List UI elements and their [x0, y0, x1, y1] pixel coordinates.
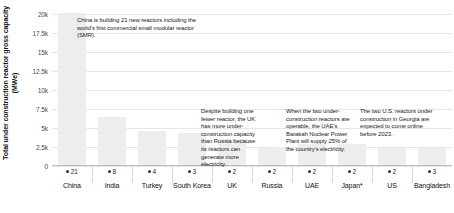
- count-dot-icon: [148, 170, 151, 173]
- bar[interactable]: [378, 148, 405, 165]
- category-column: 21China: [52, 166, 92, 212]
- x-axis-category-label: Bangladesh: [414, 182, 450, 191]
- y-axis-tick-label: 15k: [38, 49, 48, 56]
- count-dot-icon: [428, 170, 431, 173]
- reactor-count-value: 2: [392, 167, 396, 176]
- reactor-count-badge: 21: [66, 167, 78, 176]
- reactor-count-value: 21: [71, 167, 78, 176]
- y-axis-tick-label: 7.5k: [36, 106, 48, 113]
- nuclear-capacity-bar-chart: Total under construction reactor gross c…: [0, 0, 454, 213]
- count-dot-icon: [348, 170, 351, 173]
- reactor-count-badge: 2: [388, 167, 396, 176]
- reactor-count-badge: 2: [308, 167, 316, 176]
- reactor-count-badge: 8: [108, 167, 116, 176]
- category-column: 4Turkey: [132, 166, 172, 212]
- category-column: 2Russia: [252, 166, 292, 212]
- count-dot-icon: [268, 170, 271, 173]
- category-column: 8India: [92, 166, 132, 212]
- category-column: 3South Korea: [172, 166, 212, 212]
- x-axis-category-label: US: [387, 182, 397, 191]
- category-column: 2UAE: [292, 166, 332, 212]
- reactor-count-badge: 3: [428, 167, 436, 176]
- x-axis-category-label: China: [63, 182, 81, 191]
- x-axis-category-label: Turkey: [142, 182, 163, 191]
- reactor-count-badge: 2: [268, 167, 276, 176]
- count-dot-icon: [108, 170, 111, 173]
- bar-slot: [372, 14, 412, 165]
- y-axis-tick-label: 2.5k: [36, 144, 48, 151]
- bar[interactable]: [98, 117, 125, 165]
- reactor-count-badge: 2: [348, 167, 356, 176]
- x-axis-category-label: UAE: [305, 182, 319, 191]
- category-axis: 21China8India4Turkey3South Korea2UK2Russ…: [52, 166, 452, 212]
- y-axis-tick-label: 10k: [38, 87, 48, 94]
- y-axis-tick-label: 0: [44, 163, 48, 170]
- reactor-count-value: 2: [352, 167, 356, 176]
- category-column: 3Bangladesh: [412, 166, 452, 212]
- annotation-us: The two U.S. reactors under construction…: [360, 108, 434, 138]
- reactor-count-value: 3: [192, 167, 196, 176]
- category-column: 2US: [372, 166, 412, 212]
- annotation-uae: When the two under-construction reactors…: [286, 108, 352, 154]
- x-axis-category-label: UK: [227, 182, 237, 191]
- reactor-count-value: 3: [432, 167, 436, 176]
- bar[interactable]: [418, 147, 445, 165]
- reactor-count-value: 2: [272, 167, 276, 176]
- category-column: 2Japan*: [332, 166, 372, 212]
- annotation-china: China is building 21 new reactors includ…: [77, 17, 202, 40]
- category-column: 2UK: [212, 166, 252, 212]
- y-axis-tick-label: 5k: [41, 125, 48, 132]
- reactor-count-value: 2: [312, 167, 316, 176]
- bar-slot: [412, 14, 452, 165]
- count-dot-icon: [188, 170, 191, 173]
- y-axis-tick-label: 17.5k: [33, 30, 48, 37]
- annotation-uk: Despite building one fewer reactor, the …: [201, 108, 256, 169]
- count-dot-icon: [308, 170, 311, 173]
- y-axis-title: Total under construction reactor gross c…: [2, 0, 16, 168]
- x-axis-category-label: South Korea: [173, 182, 211, 191]
- reactor-count-badge: 4: [148, 167, 156, 176]
- y-axis-tick-label: 20k: [38, 11, 48, 18]
- reactor-count-value: 4: [152, 167, 156, 176]
- bar[interactable]: [138, 131, 165, 165]
- y-axis-tick-label: 12.5k: [33, 68, 48, 75]
- bar[interactable]: [258, 147, 285, 165]
- x-axis-category-label: Russia: [262, 182, 283, 191]
- count-dot-icon: [228, 170, 231, 173]
- x-axis-category-label: India: [105, 182, 120, 191]
- count-dot-icon: [66, 170, 69, 173]
- count-dot-icon: [388, 170, 391, 173]
- x-axis-category-label: Japan*: [341, 182, 362, 191]
- reactor-count-value: 8: [112, 167, 116, 176]
- reactor-count-badge: 3: [188, 167, 196, 176]
